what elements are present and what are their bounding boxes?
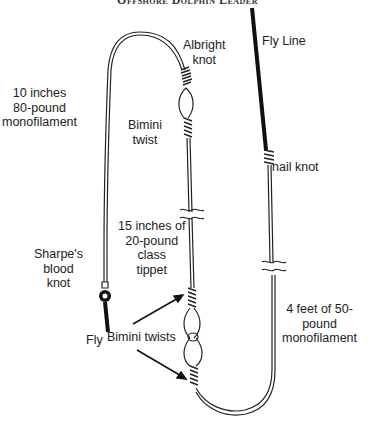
break-mark-1 <box>180 209 204 219</box>
label-bimini-twists: Bimini twists <box>107 330 176 345</box>
label-shock-tippet: 10 inches 80-pound monofilament <box>2 86 77 130</box>
fly-line <box>252 8 266 150</box>
bimini-twist-upper-knot <box>188 288 196 307</box>
butt-section-line <box>196 275 272 411</box>
label-bimini-twist: Bimini twist <box>128 118 162 147</box>
label-nail-knot: nail knot <box>272 160 319 175</box>
label-fly: Fly <box>86 333 103 348</box>
class-tippet-line <box>187 138 192 212</box>
fly-icon <box>99 282 111 332</box>
label-fly-line: Fly Line <box>262 34 306 49</box>
label-butt-section: 4 feet of 50- pound monofilament <box>282 302 357 346</box>
bimini-twist-lower-knot <box>190 366 198 385</box>
bimini-twist-knot <box>184 118 192 137</box>
bimini-loop <box>179 88 193 118</box>
label-class-tippet: 15 inches of 20-pound class tippet <box>118 219 185 277</box>
label-albright-knot: Albright knot <box>183 38 225 67</box>
label-sharpes-knot: Sharpe's blood knot <box>34 247 83 291</box>
break-mark-2 <box>262 261 286 271</box>
albright-knot <box>181 67 192 85</box>
